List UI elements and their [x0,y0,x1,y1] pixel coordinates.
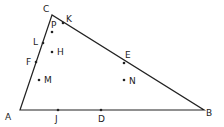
point-j-dot [57,109,60,112]
point-label-h: H [57,47,64,57]
point-l-dot [42,42,45,45]
point-label-f: F [26,57,31,67]
vertex-label-b: B [206,108,212,118]
vertex-label-c: C [43,4,49,14]
point-label-p: P [51,20,57,30]
point-p-dot [51,31,54,34]
point-label-m: M [44,75,52,85]
point-e-dot [123,62,126,65]
points: KPLHFMENJD [26,14,136,124]
point-m-dot [38,79,41,82]
point-label-k: K [66,14,73,24]
point-h-dot [51,51,54,54]
point-f-dot [35,61,38,64]
point-label-l: L [33,37,38,47]
triangle-diagram: ABC KPLHFMENJD [0,0,224,127]
point-label-e: E [125,50,131,60]
point-n-dot [123,79,126,82]
point-label-d: D [98,114,105,124]
point-k-dot [62,22,65,25]
point-label-j: J [54,114,58,124]
triangle-abc [20,15,204,110]
vertex-label-a: A [5,112,12,122]
point-label-n: N [129,76,136,86]
point-d-dot [100,109,103,112]
